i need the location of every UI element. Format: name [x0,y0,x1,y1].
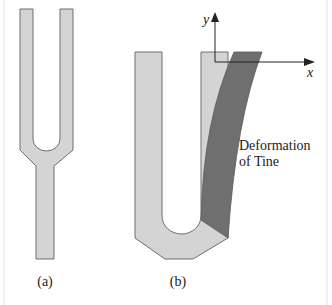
tuning-fork-figure: (a) y x Deformation of Tine (b) [0,0,332,305]
panel-b-tine-deformation: y x Deformation of Tine (b) [135,12,315,290]
x-axis-label: x [306,65,314,80]
panel-b-label: (b) [170,274,187,290]
tuning-fork-shape [20,9,73,259]
deformation-label-line1: Deformation [239,138,311,153]
panel-a-tuning-fork: (a) [20,9,73,290]
y-axis-arrow-icon [211,12,219,22]
panel-a-label: (a) [37,274,53,290]
y-axis-label: y [201,12,210,27]
deformation-label-line2: of Tine [239,154,279,169]
